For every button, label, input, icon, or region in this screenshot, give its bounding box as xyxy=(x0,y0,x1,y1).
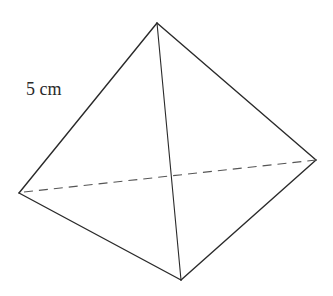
tetrahedron-diagram: 5 cm xyxy=(0,0,333,296)
edge-left-bottom xyxy=(19,193,181,280)
edge-top-right xyxy=(157,23,316,160)
edge-length-label: 5 cm xyxy=(26,79,62,99)
edge-top-left xyxy=(19,23,157,193)
edge-right-bottom xyxy=(181,160,316,280)
solid-edges xyxy=(19,23,316,280)
edge-top-bottom xyxy=(157,23,181,280)
